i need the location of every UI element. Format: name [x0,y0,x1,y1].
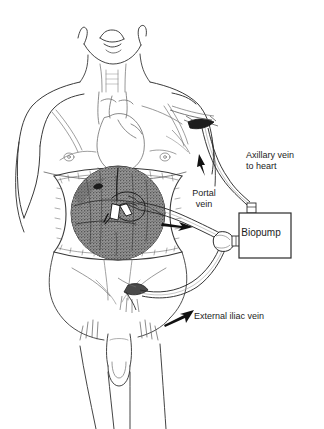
illustration-canvas: Axillary vein to heart Portal vein Exter… [0,0,324,429]
label-axillary-line2: to heart [246,161,294,172]
iliac-tube [140,244,226,298]
label-portal-vein: Portal vein [183,188,225,210]
flow-arrow-axillary [197,154,205,176]
label-external-iliac-vein: External iliac vein [194,311,264,322]
pump-top-connector [247,203,256,213]
flow-arrow-portal [161,222,193,231]
axillary-incision [166,106,218,154]
flow-arrows [161,154,205,327]
flow-arrow-iliac [164,310,194,327]
label-axillary-line1: Axillary vein [246,150,294,161]
perfusion-circuit [0,0,324,429]
label-axillary-vein: Axillary vein to heart [246,150,294,172]
groin-incision [118,278,148,313]
label-portal-line1: Portal [183,188,225,199]
label-biopump: Biopump [232,227,290,238]
label-portal-line2: vein [183,199,225,210]
